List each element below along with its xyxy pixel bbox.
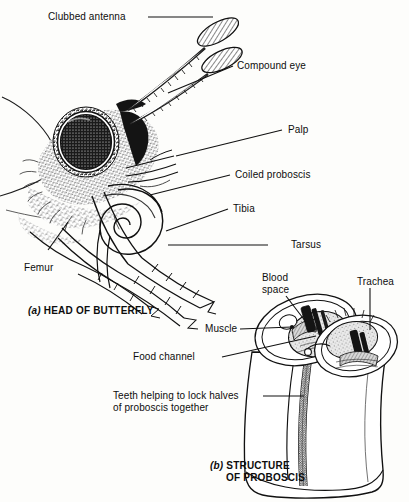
clubbed-antenna-lower [130,42,246,125]
label-palp: Palp [288,124,308,136]
label-teeth-line2: of proboscis together [113,402,209,414]
label-femur: Femur [24,262,53,274]
label-muscle: Muscle [205,323,237,335]
leader-muscle-dot [290,325,294,329]
label-tarsus: Tarsus [291,239,321,251]
label-clubbed-antenna: Clubbed antenna [48,11,126,23]
caption-part-b-text: STRUCTURE [223,460,289,471]
leader-coiled-proboscis [150,175,230,195]
label-blood-space-line2: space [262,284,289,296]
caption-part-a-prefix: (a) [28,305,41,316]
label-food-channel: Food channel [133,351,195,363]
caption-part-a-text: HEAD OF BUTTERFLY [41,305,154,316]
label-coiled-proboscis: Coiled proboscis [235,169,311,181]
label-blood-space-line1: Blood [262,272,288,284]
label-compound-eye: Compound eye [237,60,306,72]
caption-part-b-prefix: (b) [210,460,223,471]
compound-eye [53,107,119,177]
caption-part-a: (a) HEAD OF BUTTERFLY [28,305,154,317]
label-tibia: Tibia [233,203,255,215]
junction-node [305,349,312,356]
caption-part-b-text2: OF PROBOSCIS [226,472,305,484]
butterfly-head-and-proboscis-diagram [0,0,409,502]
label-teeth-line1: Teeth helping to lock halves [113,390,239,402]
leader-palp [176,130,282,156]
caption-part-b: (b) STRUCTURE [210,460,290,472]
leader-tibia [166,209,228,231]
label-trachea: Trachea [357,276,394,288]
